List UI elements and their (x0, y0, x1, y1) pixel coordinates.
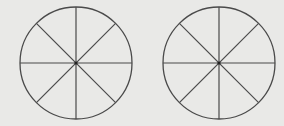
center-point (217, 61, 220, 64)
left-circle (20, 7, 132, 119)
diagram-canvas (0, 0, 284, 126)
right-circle (163, 7, 275, 119)
center-point (74, 61, 77, 64)
